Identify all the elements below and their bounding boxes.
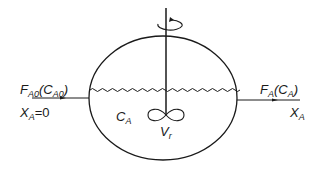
outlet-conversion-label: XA xyxy=(289,105,305,122)
reactor-vessel xyxy=(89,36,237,160)
rotation-arrow-icon xyxy=(158,17,182,30)
vessel-volume-label: Vr xyxy=(160,124,173,141)
inlet-conversion-label: XA=0 xyxy=(19,105,50,122)
inlet-flow-label: FA0(CA0) xyxy=(20,82,68,99)
liquid-surface-wave xyxy=(90,89,240,92)
cstr-diagram: FA0(CA0) XA=0 FA(CA) XA CA Vr xyxy=(0,0,322,172)
outlet-flow-label: FA(CA) xyxy=(260,82,298,99)
vessel-concentration-label: CA xyxy=(116,109,131,126)
